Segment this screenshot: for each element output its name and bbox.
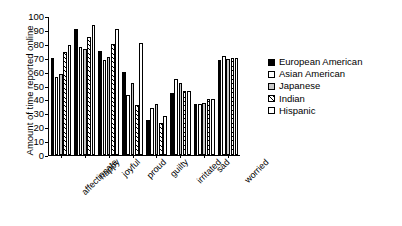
y-tick-mark [45, 31, 48, 32]
bar [74, 29, 78, 155]
bar [170, 93, 174, 155]
y-tick-mark [45, 142, 48, 143]
bar-group [97, 17, 121, 155]
bar [59, 74, 63, 155]
y-tick-label: 80 [10, 40, 44, 50]
bar-chart-figure: Amount of time reported online 010203040… [0, 0, 402, 226]
x-tick-label: happy [97, 157, 121, 181]
bar [51, 58, 55, 155]
bar [155, 104, 159, 155]
bar [235, 58, 239, 155]
legend-label: European American [279, 57, 362, 67]
bar [163, 116, 167, 155]
y-tick-mark [45, 100, 48, 101]
bar-group [73, 17, 97, 155]
y-tick-label: 30 [10, 109, 44, 119]
y-tick-mark [45, 45, 48, 46]
bar [139, 43, 143, 155]
bar [68, 45, 72, 156]
legend-label: Asian American [279, 69, 345, 79]
bar [218, 60, 222, 155]
bar [194, 104, 198, 155]
bar [159, 123, 163, 155]
bar [174, 79, 178, 155]
legend-swatch-icon [268, 83, 275, 90]
legend-item: Hispanic [268, 106, 362, 116]
bar [83, 49, 87, 155]
bar [111, 44, 115, 155]
bar [231, 58, 235, 155]
bar [92, 25, 96, 155]
x-tick-label: proud [145, 157, 168, 180]
y-tick-mark [45, 87, 48, 88]
bar-group [168, 17, 192, 155]
legend-swatch-icon [268, 71, 275, 78]
legend-label: Japanese [279, 81, 320, 91]
bar [126, 95, 130, 155]
bar [55, 77, 59, 155]
legend-item: Asian American [268, 69, 362, 79]
y-tick-label: 60 [10, 68, 44, 78]
bar [179, 83, 183, 155]
bar [222, 56, 226, 155]
bar [202, 103, 206, 155]
bar [87, 37, 91, 155]
legend-swatch-icon [268, 59, 275, 66]
y-tick-label: 90 [10, 26, 44, 36]
bar [115, 29, 119, 155]
legend-label: Indian [279, 94, 305, 104]
y-tick-mark [45, 17, 48, 18]
y-tick-label: 20 [10, 123, 44, 133]
y-tick-label: 50 [10, 82, 44, 92]
bar [122, 72, 126, 155]
bar [226, 59, 230, 155]
x-axis-line [48, 155, 240, 156]
legend-label: Hispanic [279, 106, 315, 116]
bar [98, 51, 102, 155]
bar [146, 120, 150, 155]
bar-group [145, 17, 169, 155]
legend-item: European American [268, 57, 362, 67]
bar-group [192, 17, 216, 155]
y-tick-label: 40 [10, 95, 44, 105]
bar [183, 91, 187, 155]
y-tick-label: 100 [10, 12, 44, 22]
bar [207, 99, 211, 155]
bar [198, 104, 202, 155]
bar [131, 83, 135, 155]
legend-swatch-icon [268, 107, 275, 114]
legend-swatch-icon [268, 95, 275, 102]
y-tick-mark [45, 73, 48, 74]
bar [79, 47, 83, 155]
bar [63, 52, 67, 155]
plot-area: 0102030405060708090100 [48, 17, 240, 156]
bar [150, 108, 154, 155]
bar [211, 99, 215, 155]
bar [135, 105, 139, 155]
y-tick-mark [45, 128, 48, 129]
legend-item: Indian [268, 94, 362, 104]
bar [107, 57, 111, 155]
bar [103, 60, 107, 155]
x-tick-label: joyful [120, 157, 142, 179]
x-axis-labels: affectionatehappyjoyfulproudguiltyirrita… [48, 157, 240, 219]
y-tick-mark [45, 114, 48, 115]
bar-groups [49, 17, 240, 155]
x-tick-label: worried [243, 157, 271, 185]
x-tick-label: guilty [168, 157, 190, 179]
bar-group [121, 17, 145, 155]
bar [187, 91, 191, 155]
bar-group [49, 17, 73, 155]
chart-legend: European AmericanAsian AmericanJapaneseI… [268, 57, 362, 116]
y-tick-label: 70 [10, 54, 44, 64]
bar-group [216, 17, 240, 155]
y-tick-label: 0 [10, 151, 44, 161]
y-tick-mark [45, 59, 48, 60]
y-tick-label: 10 [10, 137, 44, 147]
legend-item: Japanese [268, 81, 362, 91]
